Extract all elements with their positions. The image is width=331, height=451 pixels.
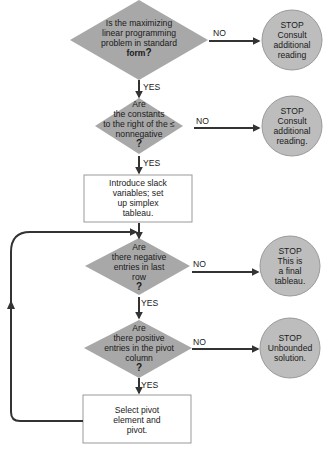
s2-line: Consult <box>262 116 322 126</box>
flowchart-canvas <box>0 0 331 451</box>
edge-label-d2-no: NO <box>196 116 209 126</box>
d4-line: there positive <box>82 333 196 343</box>
d2-line: Are <box>82 99 196 109</box>
decision-d1-label: Is the maximizing linear programming pro… <box>82 18 196 58</box>
decision-d3-label: Are there negative entries in last row ? <box>87 242 191 292</box>
process-b1-label: Introduce slack variables; set up simple… <box>84 178 192 218</box>
s4-line: solution. <box>260 353 320 363</box>
b2-line: element and <box>83 415 191 425</box>
d4-line: entries in the pivot <box>82 343 196 353</box>
edge-label-d2-yes: YES <box>143 158 160 168</box>
s1-line: reading <box>262 50 322 60</box>
s3-line: tableau. <box>260 276 320 286</box>
b1-line: up simplex <box>84 198 192 208</box>
b1-line: tableau. <box>84 208 192 218</box>
d4-mark: ? <box>82 363 196 373</box>
stop-s1-label: STOP Consult additional reading <box>262 20 322 60</box>
d3-mark: ? <box>87 282 191 292</box>
d1-mark: ? <box>146 47 152 58</box>
edge-label-d1-yes: YES <box>143 82 160 92</box>
decision-d2-label: Are the constants to the right of the ≤ … <box>82 99 196 149</box>
stop-s2-label: STOP Consult additional reading. <box>262 106 322 146</box>
s4-line: Unbounded <box>260 343 320 353</box>
loop-up-arrowhead <box>7 300 15 309</box>
s2-line: STOP <box>262 106 322 116</box>
d2-mark: ? <box>82 139 196 149</box>
d1-line: problem in standard <box>82 38 196 48</box>
d1-line: form? <box>82 48 196 58</box>
edge-label-d3-yes: YES <box>141 298 158 308</box>
s4-line: STOP <box>260 333 320 343</box>
d4-line: Are <box>82 323 196 333</box>
s3-line: STOP <box>260 246 320 256</box>
d1-line: Is the maximizing <box>82 18 196 28</box>
d3-line: there negative <box>87 252 191 262</box>
edge-label-d4-no: NO <box>193 337 206 347</box>
d1-line: linear programming <box>82 28 196 38</box>
edge-label-d1-no: NO <box>213 28 226 38</box>
d2-line: the constants <box>82 109 196 119</box>
s1-line: STOP <box>262 20 322 30</box>
b1-line: Introduce slack <box>84 178 192 188</box>
s1-line: Consult <box>262 30 322 40</box>
edge-label-d4-yes: YES <box>141 380 158 390</box>
s3-line: This is <box>260 256 320 266</box>
d1-line: form <box>126 48 145 58</box>
decision-d4-label: Are there positive entries in the pivot … <box>82 323 196 373</box>
edge-label-d3-no: NO <box>193 259 206 269</box>
s2-line: additional <box>262 126 322 136</box>
d3-line: Are <box>87 242 191 252</box>
process-b2-label: Select pivot element and pivot. <box>83 405 191 435</box>
b1-line: variables; set <box>84 188 192 198</box>
b2-line: Select pivot <box>83 405 191 415</box>
stop-s4-label: STOP Unbounded solution. <box>260 333 320 363</box>
stop-s3-label: STOP This is a final tableau. <box>260 246 320 286</box>
s2-line: reading. <box>262 136 322 146</box>
s3-line: a final <box>260 266 320 276</box>
b2-line: pivot. <box>83 425 191 435</box>
d3-line: entries in last <box>87 262 191 272</box>
d2-line: to the right of the ≤ <box>82 119 196 129</box>
s1-line: additional <box>262 40 322 50</box>
